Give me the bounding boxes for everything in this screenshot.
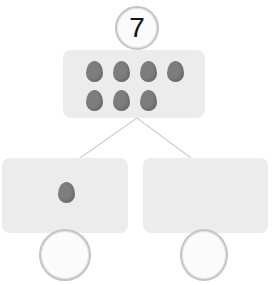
connector-line-left [80, 118, 137, 158]
egg-icon [140, 90, 157, 111]
right-part-number [182, 231, 226, 279]
right-part-answer-circle[interactable] [180, 229, 228, 281]
left-part-number [41, 231, 89, 279]
egg-icon [167, 61, 184, 82]
egg-icon [86, 61, 103, 82]
egg-icon [86, 90, 103, 111]
whole-egg-box [63, 50, 205, 118]
whole-number-circle: 7 [115, 6, 159, 50]
right-part-egg-box [143, 158, 268, 233]
left-part-egg-box [2, 158, 128, 233]
whole-number: 7 [117, 8, 157, 48]
left-part-answer-circle[interactable] [39, 229, 91, 281]
egg-icon [140, 61, 157, 82]
egg-icon [113, 61, 130, 82]
connector-line-right [137, 118, 191, 158]
egg-icon [113, 90, 130, 111]
egg-icon [58, 182, 75, 203]
